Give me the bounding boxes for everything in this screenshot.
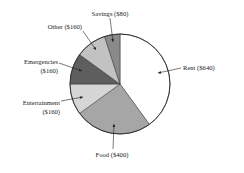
slice-label-entertainment: Entertainment <box>23 99 61 106</box>
pie-slices <box>70 34 170 134</box>
slice-label-other: Other ($160) <box>48 23 82 31</box>
pie-chart: Rent ($640)Food ($400)Entertainment($160… <box>0 0 244 173</box>
slice-label-food: Food ($400) <box>96 151 129 159</box>
slice-label-rent: Rent ($640) <box>183 64 215 72</box>
slice-label-savings: Savings ($80) <box>92 10 129 18</box>
slice-label-emergencies-value: ($160) <box>40 67 58 75</box>
slice-label-emergencies: Emergencies <box>24 58 58 65</box>
slice-label-entertainment-value: ($160) <box>42 108 60 116</box>
